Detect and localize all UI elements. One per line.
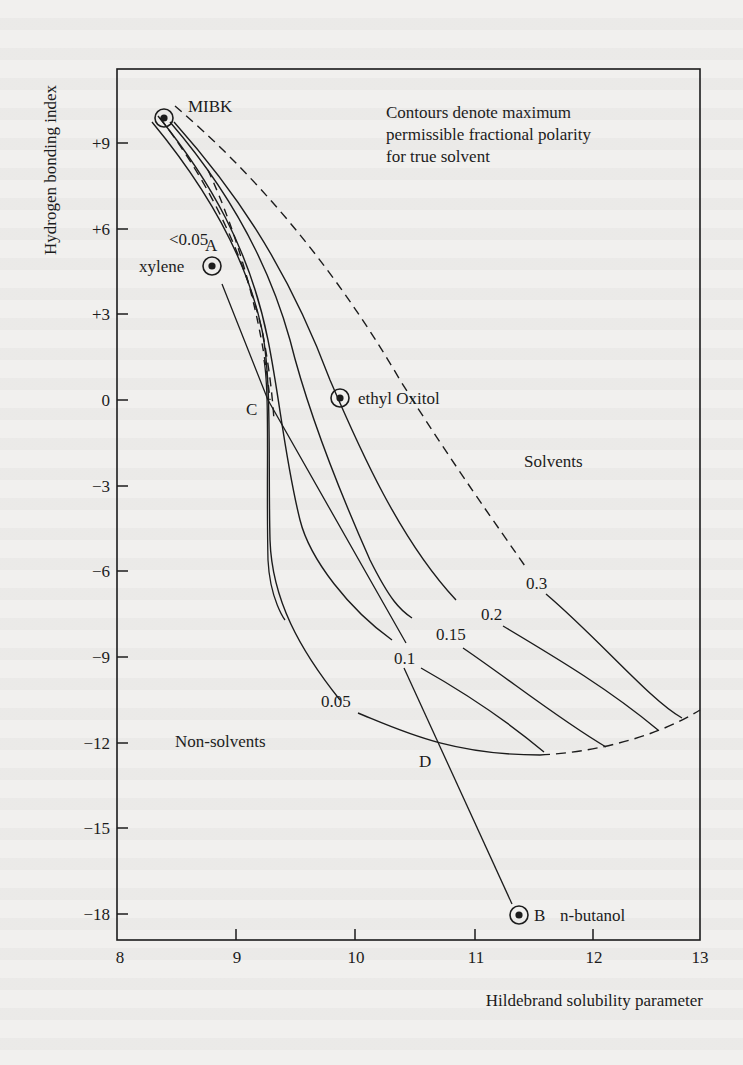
svg-text:0: 0 <box>102 391 111 410</box>
x-axis-title: Hildebrand solubility parameter <box>486 991 703 1010</box>
non-solvents-region-label: Non-solvents <box>175 732 266 751</box>
svg-text:9: 9 <box>233 948 242 967</box>
point-n-butanol <box>510 906 528 924</box>
x-tick-labels: 8 9 10 11 12 13 <box>116 948 709 967</box>
svg-text:0.1: 0.1 <box>394 649 415 668</box>
contours <box>152 106 700 755</box>
annotation: Contours denote maximum permissible frac… <box>386 103 591 166</box>
svg-text:10: 10 <box>348 948 365 967</box>
y-ticks <box>117 143 128 914</box>
svg-text:−12: −12 <box>83 734 110 753</box>
svg-text:permissible fractional polarit: permissible fractional polarity <box>386 125 591 144</box>
mixing-line <box>222 284 512 904</box>
svg-text:12: 12 <box>586 948 603 967</box>
svg-text:Contours denote maximum: Contours denote maximum <box>386 103 571 122</box>
svg-text:0.2: 0.2 <box>481 605 502 624</box>
y-tick-labels: +9 +6 +3 0 −3 −6 −9 −12 −15 −18 <box>83 134 110 924</box>
svg-text:0.05: 0.05 <box>321 692 351 711</box>
contour-bottom-dashed <box>540 710 700 755</box>
svg-text:11: 11 <box>468 948 484 967</box>
svg-text:−3: −3 <box>92 477 110 496</box>
contour-03-tail <box>546 594 682 718</box>
svg-text:13: 13 <box>692 948 709 967</box>
point-labels: MIBK A xylene ethyl Oxitol B n-butanol C… <box>139 97 625 925</box>
contour-005-tail <box>358 713 540 755</box>
contour-03 <box>175 106 525 566</box>
svg-text:+9: +9 <box>92 134 110 153</box>
contour-labels: <0.05 0.05 0.1 0.15 0.2 0.3 <box>169 230 547 711</box>
contour-01-tail <box>421 668 544 752</box>
point-xylene <box>203 257 221 275</box>
svg-text:MIBK: MIBK <box>188 97 233 116</box>
svg-text:ethyl Oxitol: ethyl Oxitol <box>358 389 440 408</box>
svg-text:+3: +3 <box>92 305 110 324</box>
contour-02 <box>174 122 456 600</box>
svg-text:+6: +6 <box>92 220 110 239</box>
y-axis-title: Hydrogen bonding index <box>41 85 60 255</box>
svg-text:B: B <box>534 906 545 925</box>
svg-text:<0.05: <0.05 <box>169 230 208 249</box>
chart: +9 +6 +3 0 −3 −6 −9 −12 −15 −18 8 9 10 1… <box>0 0 743 1065</box>
svg-text:0.15: 0.15 <box>436 625 466 644</box>
contour-015-tail <box>463 648 606 747</box>
svg-text:C: C <box>246 400 257 419</box>
contour-01 <box>158 116 392 640</box>
data-points <box>155 109 528 924</box>
x-ticks <box>236 929 593 940</box>
svg-text:−18: −18 <box>83 905 110 924</box>
svg-text:−9: −9 <box>92 648 110 667</box>
svg-text:n-butanol: n-butanol <box>560 906 625 925</box>
svg-text:for true solvent: for true solvent <box>386 147 490 166</box>
solvents-region-label: Solvents <box>524 452 583 471</box>
svg-text:D: D <box>419 752 431 771</box>
svg-text:−6: −6 <box>92 562 110 581</box>
svg-text:8: 8 <box>116 948 125 967</box>
plot-frame <box>117 69 700 940</box>
svg-text:−15: −15 <box>83 819 110 838</box>
svg-text:xylene: xylene <box>139 257 184 276</box>
svg-text:0.3: 0.3 <box>526 574 547 593</box>
